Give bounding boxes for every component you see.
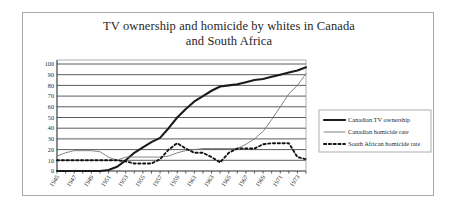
x-axis-tick-label: 1945 (47, 174, 60, 188)
x-axis-ticks: 1945194719491951195319551957195919611963… (47, 171, 306, 188)
y-axis-tick-label: 80 (48, 82, 54, 89)
y-axis-tick-label: 0 (51, 167, 54, 174)
line-chart: 0102030405060708090100 19451947194919511… (23, 13, 435, 197)
x-axis-tick-label: 1951 (99, 174, 112, 188)
y-axis-tick-label: 70 (48, 92, 54, 99)
x-axis-tick-label: 1947 (65, 174, 78, 188)
x-axis-tick-label: 1971 (271, 174, 284, 188)
y-axis-tick-label: 50 (48, 114, 54, 121)
series-line-1 (57, 67, 306, 171)
x-axis-tick-label: 1953 (116, 174, 129, 188)
legend-label-1: Canadian TV ownership (348, 116, 410, 123)
data-series (57, 67, 306, 171)
x-axis-tick-label: 1969 (254, 174, 267, 188)
y-axis-tick-label: 20 (48, 146, 54, 153)
x-axis-tick-label: 1949 (82, 174, 95, 188)
plot-area-wrapper: 0102030405060708090100 19451947194919511… (23, 13, 435, 197)
x-axis-tick-label: 1959 (168, 174, 181, 188)
x-axis-tick-label: 1973 (288, 174, 301, 188)
x-axis-tick-label: 1957 (151, 174, 164, 188)
x-axis-tick-label: 1961 (185, 174, 198, 188)
y-axis-tick-label: 10 (48, 157, 54, 164)
y-axis-tick-label: 30 (48, 135, 54, 142)
y-axis-tick-label: 100 (45, 60, 54, 67)
chart-figure: TV ownership and homicide by whites in C… (22, 12, 434, 196)
y-axis-tick-label: 60 (48, 103, 54, 110)
x-axis-tick-label: 1955 (133, 174, 146, 188)
legend-label-2: Canadian homicide rate (348, 128, 409, 135)
x-axis-tick-label: 1967 (236, 174, 249, 188)
legend-label-3: South African homicide rate (348, 140, 420, 147)
chart-legend: Canadian TV ownershipCanadian homicide r… (319, 110, 431, 152)
series-line-2 (57, 74, 306, 161)
y-axis-ticks: 0102030405060708090100 (45, 60, 54, 174)
y-axis-tick-label: 40 (48, 124, 54, 131)
y-axis-tick-label: 90 (48, 71, 54, 78)
x-axis-tick-label: 1963 (202, 174, 215, 188)
x-axis-tick-label: 1965 (219, 174, 232, 188)
